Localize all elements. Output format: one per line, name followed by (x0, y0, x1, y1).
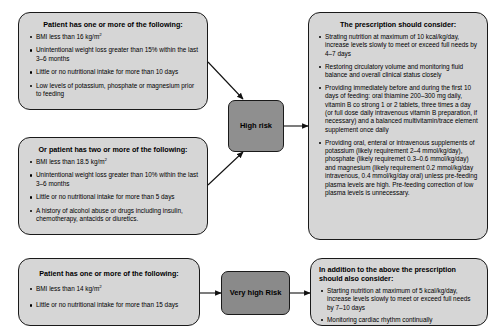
list-item: Restoring circulatory volume and monitor… (317, 63, 479, 80)
very-high-risk-criteria-list: BMI less than 14 kg/m2 Little or no nutr… (28, 285, 190, 310)
list-item: Low levels of potassium, phosphate or ma… (28, 82, 198, 99)
prescription-title: The prescription should consider: (317, 20, 479, 29)
prescription-box: The prescription should consider: Strati… (308, 12, 488, 240)
very-high-risk-criteria-title: Patient has one or more of the following… (28, 269, 190, 278)
arrow-criteria-b-to-high-risk (208, 152, 243, 185)
list-item: Little or no nutritional intake for more… (28, 301, 190, 309)
high-risk-criteria-a-title: Patient has one or more of the following… (28, 20, 198, 29)
list-item: Unintentional weight loss greater than 1… (28, 171, 198, 188)
high-risk-criteria-b-list: BMI less than 18.5 kg/m2 Unintentional w… (28, 158, 198, 224)
list-item: BMI less than 16 kg/m2 (28, 33, 198, 41)
list-item: BMI less than 18.5 kg/m2 (28, 158, 198, 166)
prescription-additional-list: Starting nutrition at maximum of 5 kcal/… (319, 287, 479, 324)
prescription-additional-title: In addition to the above the prescriptio… (319, 265, 479, 283)
prescription-list: Strating nutrition at maximum of 10 kcal… (317, 33, 479, 198)
high-risk-node-label: High risk (240, 122, 272, 130)
very-high-risk-criteria-box: Patient has one or more of the following… (18, 258, 200, 326)
list-item: Little or no nutritional intake for more… (28, 193, 198, 201)
flowchart-canvas: Patient has one or more of the following… (0, 0, 498, 335)
very-high-risk-node-label: Very high Risk (230, 289, 282, 297)
arrow-criteria-a-to-high-risk (208, 62, 243, 99)
list-item: Monitoring cardiac rhythm continually (319, 316, 479, 324)
list-item: Little or no nutritional intake for more… (28, 68, 198, 76)
list-item: A history of alcohol abuse or drugs incl… (28, 207, 198, 224)
list-item: Unintentional weight loss greater than 1… (28, 46, 198, 63)
prescription-additional-box: In addition to the above the prescriptio… (310, 258, 488, 326)
list-item: Providing immediately before and during … (317, 84, 479, 135)
high-risk-criteria-b-box: Or patient has two or more of the follow… (18, 137, 208, 235)
very-high-risk-node: Very high Risk (221, 271, 290, 315)
high-risk-node: High risk (228, 100, 284, 152)
list-item: Starting nutrition at maximum of 5 kcal/… (319, 287, 479, 312)
list-item: BMI less than 14 kg/m2 (28, 285, 190, 293)
high-risk-criteria-a-box: Patient has one or more of the following… (18, 12, 208, 110)
high-risk-criteria-a-list: BMI less than 16 kg/m2 Unintentional wei… (28, 33, 198, 99)
high-risk-criteria-b-title: Or patient has two or more of the follow… (28, 145, 198, 154)
list-item: Strating nutrition at maximum of 10 kcal… (317, 33, 479, 58)
list-item: Providing oral, enteral or intravenous s… (317, 139, 479, 198)
